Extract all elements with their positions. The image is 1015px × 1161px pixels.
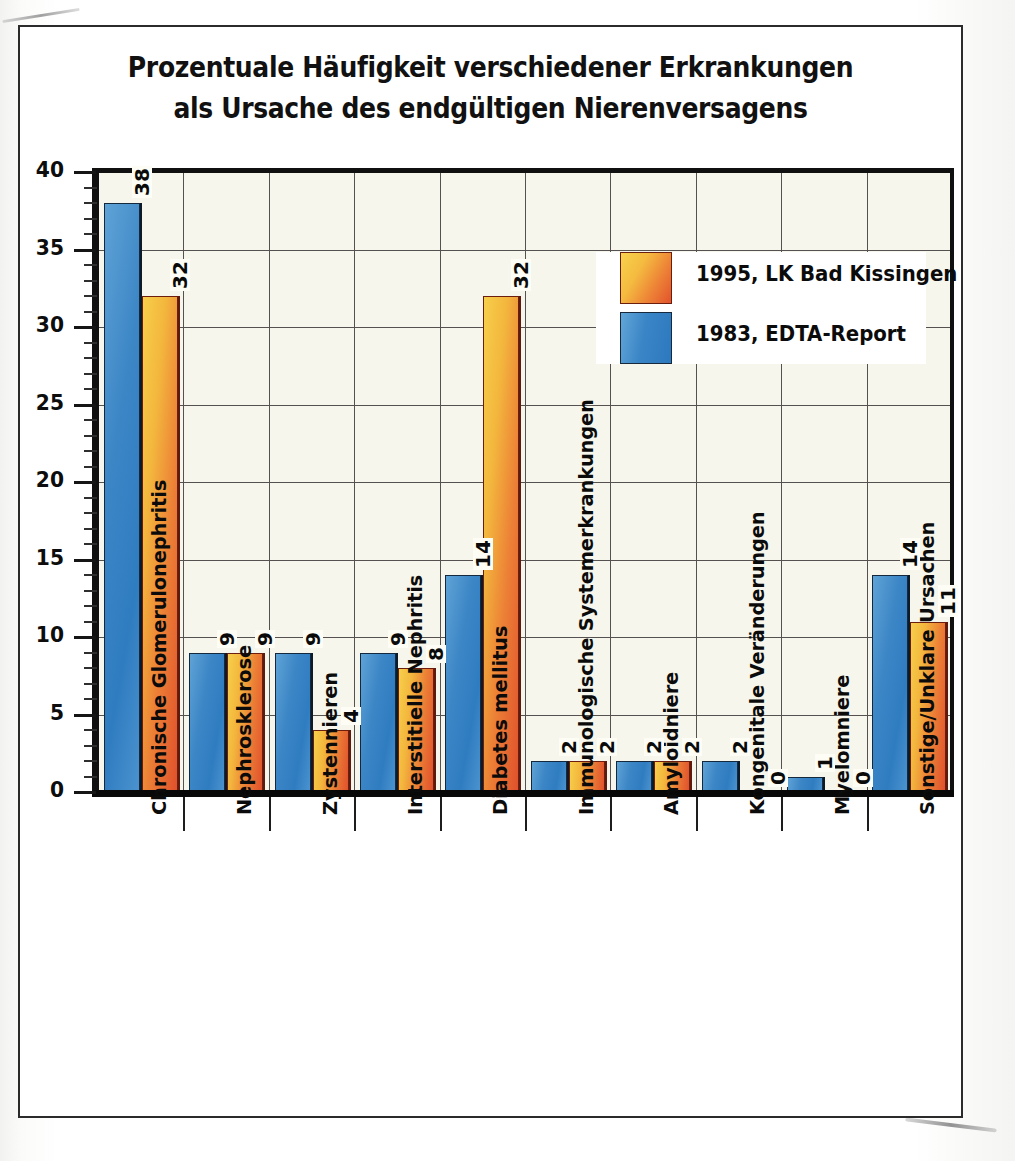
x-axis-tick — [354, 797, 356, 831]
bar-value-label: 14 — [900, 538, 920, 570]
bar-blue — [360, 653, 396, 793]
x-axis-category-label: Chronische Glomerulonephritis — [150, 480, 169, 815]
bar-blue — [616, 761, 652, 792]
bar-value-label: 2 — [597, 738, 617, 756]
y-axis-label: 25 — [11, 390, 64, 415]
bar-value-label: 4 — [341, 707, 361, 725]
gridline-vertical — [269, 172, 270, 792]
bar-blue — [104, 203, 140, 792]
bar-value-label: 1 — [815, 754, 835, 772]
bar-value-label: 2 — [559, 738, 579, 756]
y-axis-tick-minor — [84, 590, 97, 592]
y-axis-tick-minor — [84, 543, 97, 545]
x-axis-tick — [183, 797, 185, 831]
legend-item: 1983, EDTA-Report — [596, 312, 926, 364]
y-axis-label: 35 — [11, 235, 64, 260]
y-axis-tick-minor — [84, 342, 97, 344]
y-axis-tick-minor — [84, 729, 97, 731]
bar-blue — [445, 575, 481, 792]
x-axis-tick — [867, 797, 869, 831]
legend-label: 1983, EDTA-Report — [696, 322, 906, 346]
y-axis-tick-minor — [84, 512, 97, 514]
y-axis-tick-minor — [84, 621, 97, 623]
y-axis-tick-minor — [84, 280, 97, 282]
y-axis-tick-minor — [84, 683, 97, 685]
y-axis-tick-major — [74, 171, 96, 174]
bar-blue — [872, 575, 908, 792]
y-axis-tick-minor — [84, 745, 97, 747]
scanned-page-background: Prozentuale Häufigkeit verschiedener Erk… — [0, 0, 1015, 1161]
bar-value-label: 9 — [303, 630, 323, 648]
y-axis-label: 40 — [11, 157, 64, 182]
bar-value-label: 0 — [768, 769, 788, 787]
y-axis-tick-major — [74, 404, 96, 407]
bar-value-label: 32 — [170, 259, 190, 291]
bar-value-label: 9 — [388, 630, 408, 648]
y-axis-tick-minor — [84, 187, 97, 189]
y-axis-tick-minor — [84, 311, 97, 313]
bar-value-label: 0 — [853, 769, 873, 787]
axis-top-line — [92, 168, 954, 173]
y-axis-tick-minor — [84, 295, 97, 297]
x-axis-tick — [781, 797, 783, 831]
bar-blue — [531, 761, 567, 792]
bar-blue — [275, 653, 311, 793]
x-axis-tick — [610, 797, 612, 831]
x-axis-category-label: Zystennieren — [321, 672, 340, 815]
y-axis-tick-minor — [84, 497, 97, 499]
bar-value-label: 2 — [682, 738, 702, 756]
y-axis-tick-minor — [84, 218, 97, 220]
y-axis-tick-minor — [84, 373, 97, 375]
x-axis-tick — [440, 797, 442, 831]
y-axis-tick-minor — [84, 776, 97, 778]
y-axis-tick-minor — [84, 419, 97, 421]
legend-item: 1995, LK Bad Kissingen — [596, 252, 926, 304]
y-axis-tick-minor — [84, 388, 97, 390]
y-axis-label: 20 — [11, 467, 64, 492]
legend-label: 1995, LK Bad Kissingen — [696, 262, 957, 286]
bar-value-label: 9 — [255, 630, 275, 648]
bar-value-label: 8 — [426, 645, 446, 663]
y-axis-tick-major — [74, 249, 96, 252]
y-axis-tick-minor — [84, 574, 97, 576]
x-axis-tick — [525, 797, 527, 831]
legend-swatch — [620, 252, 672, 304]
y-axis-tick-major — [74, 714, 96, 717]
y-axis-tick-minor — [84, 605, 97, 607]
y-axis-tick-minor — [84, 652, 97, 654]
x-axis-line — [92, 790, 954, 797]
y-axis-tick-minor — [84, 667, 97, 669]
bar-blue — [702, 761, 738, 792]
y-axis-label: 5 — [11, 700, 64, 725]
legend-swatch — [620, 312, 672, 364]
y-axis-tick-minor — [84, 357, 97, 359]
bar-value-label: 14 — [473, 538, 493, 570]
y-axis-tick-minor — [84, 528, 97, 530]
x-axis-category-label: Kongenitale Veränderungen — [748, 511, 767, 815]
y-axis-label: 15 — [11, 545, 64, 570]
y-axis-tick-major — [74, 791, 96, 794]
y-axis-tick-minor — [84, 233, 97, 235]
x-axis-category-label: Interstitielle Nephritis — [406, 575, 425, 815]
y-axis-tick-minor — [84, 202, 97, 204]
y-axis-tick-minor — [84, 435, 97, 437]
y-axis-label: 10 — [11, 622, 64, 647]
gridline-vertical — [440, 172, 441, 792]
y-axis-tick-minor — [84, 760, 97, 762]
y-axis-label: 30 — [11, 312, 64, 337]
bar-value-label: 38 — [132, 166, 152, 198]
y-axis-tick-minor — [84, 264, 97, 266]
y-axis-tick-major — [74, 559, 96, 562]
bar-value-label: 32 — [511, 259, 531, 291]
y-axis-tick-minor — [84, 698, 97, 700]
bar-value-label: 9 — [217, 630, 237, 648]
y-axis-tick-minor — [84, 466, 97, 468]
bar-value-label: 2 — [730, 738, 750, 756]
bar-value-label: 11 — [938, 585, 958, 617]
x-axis-tick — [269, 797, 271, 831]
x-axis-category-label: Myelomniere — [833, 675, 852, 815]
y-axis-tick-minor — [84, 450, 97, 452]
bar-blue — [189, 653, 225, 793]
x-axis-tick — [696, 797, 698, 831]
chart-legend: 1995, LK Bad Kissingen1983, EDTA-Report — [596, 252, 926, 364]
